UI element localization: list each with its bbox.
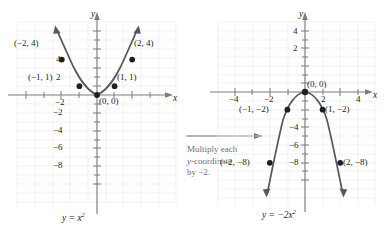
right-ytick-neg4: −4 (289, 123, 299, 132)
right-graph-panel: 4 2 −4 −6 −8 −4 −2 2 4 y x (0, 0) (−1, −… (200, 0, 390, 236)
point-neg1-1 (77, 83, 83, 89)
right-xtick-neg2: −2 (264, 95, 274, 104)
right-curve-arrow-left (263, 189, 271, 198)
left-equation-base: y = x (62, 213, 82, 223)
left-ytick-neg4: −4 (53, 126, 63, 135)
left-point-label-neg2-4: (−2, 4) (14, 39, 39, 48)
right-ytick-2: 2 (293, 44, 298, 53)
left-point-label-neg1-1: (−1, 1) (28, 73, 53, 82)
left-point-label-0-0: (0, 0) (99, 97, 119, 106)
right-ytick-4: 4 (293, 27, 298, 36)
left-ytick-neg6: −6 (53, 143, 63, 152)
right-ytick-neg6: −6 (289, 141, 299, 150)
point-neg2-neg8 (267, 160, 273, 166)
right-equation-label: y = −2x2 (262, 209, 296, 221)
right-equation-base: y = −2x (262, 210, 293, 220)
point-1-1 (112, 83, 118, 89)
right-point-label-neg1-neg2: (−1, −2) (239, 105, 269, 114)
point-neg1-neg2 (285, 107, 291, 113)
left-ytick-2: 2 (56, 73, 61, 82)
right-point-label-0-0: (0, 0) (307, 80, 327, 89)
right-point-label-2-neg8: (2, −8) (343, 158, 368, 167)
right-y-axis-label: y (299, 10, 303, 20)
math-figure-transformation: 4 2 −2 −4 −6 −8 −2 y x (−2, 4) (−1, 1) (… (0, 0, 390, 236)
right-point-label-1-neg2: (1, −2) (325, 105, 350, 114)
right-equation-exponent: 2 (293, 208, 296, 215)
left-y-axis-label: y (91, 10, 95, 20)
point-2-4 (129, 57, 135, 63)
left-ytick-neg8: −8 (53, 161, 63, 170)
right-curve-arrow-right (340, 189, 348, 198)
right-ytick-neg8: −8 (289, 158, 299, 167)
left-ytick-4: 4 (56, 55, 61, 64)
right-x-axis-label: x (373, 91, 377, 101)
left-point-label-2-4: (2, 4) (134, 39, 154, 48)
right-axes (210, 18, 368, 212)
right-xtick-neg4: −4 (229, 95, 239, 104)
left-point-label-1-1: (1, 1) (117, 73, 137, 82)
left-graph-panel: 4 2 −2 −4 −6 −8 −2 y x (−2, 4) (−1, 1) (… (0, 0, 190, 236)
left-curve-arrow-left (53, 26, 60, 34)
left-graph-svg (0, 0, 190, 236)
left-equation-label: y = x2 (62, 212, 85, 224)
point-0-0 (302, 89, 308, 95)
left-x-axis-arrow (165, 92, 173, 98)
left-ytick-neg2: −2 (53, 108, 63, 117)
left-curve-arrow-right (133, 26, 140, 34)
left-equation-exponent: 2 (82, 211, 85, 218)
right-xtick-2: 2 (321, 95, 326, 104)
right-x-axis-arrow (365, 89, 373, 95)
left-x-axis-label: x (173, 94, 177, 104)
left-xtick-neg2: −2 (55, 98, 65, 107)
right-point-label-neg2-neg8: (−2, −8) (220, 158, 250, 167)
right-xtick-4: 4 (356, 95, 361, 104)
